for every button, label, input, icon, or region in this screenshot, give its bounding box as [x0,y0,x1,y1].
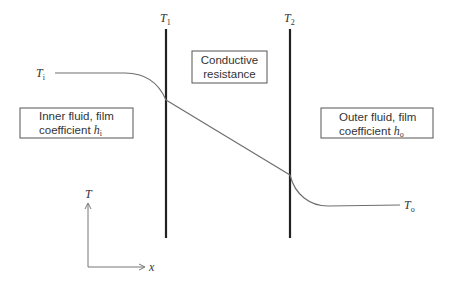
inner-fluid-profile [55,73,166,100]
outer-box-line1: Outer fluid, film [339,111,416,123]
axes: T x [85,187,155,274]
wall-conduction-profile [166,100,290,175]
y-axis-label: T [85,187,93,201]
x-axis-label: x [148,260,155,274]
inner-box-line1: Inner fluid, film [39,110,114,122]
outer-fluid-profile [290,175,400,206]
wall-1-label: T1 [160,11,171,27]
conductive-resistance-box: Conductive resistance [192,51,267,83]
outer-box-line2: coefficient ho [339,124,404,139]
conductive-box-line2: resistance [203,68,255,80]
conductive-box-line1: Conductive [201,54,259,66]
inner-fluid-box: Inner fluid, film coefficient hi [20,108,133,138]
wall-2-label: T2 [284,11,295,27]
outlet-temp-label: To [404,198,415,214]
outer-fluid-box: Outer fluid, film coefficient ho [321,108,433,139]
temperature-profile-diagram: T1 T2 Ti To Inner fluid, film coefficien… [0,0,450,286]
inlet-temp-label: Ti [36,66,46,82]
inner-box-line2: coefficient hi [39,123,103,138]
